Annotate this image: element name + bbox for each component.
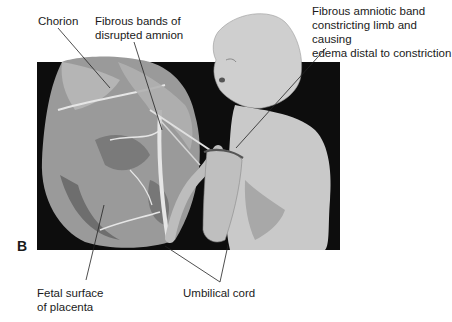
leader-umbilical-cord-b: [220, 245, 228, 282]
label-fetal-surface: Fetal surface of placenta: [37, 286, 103, 314]
label-umbilical-cord: Umbilical cord: [183, 286, 255, 300]
panel-letter: B: [17, 238, 27, 254]
label-chorion: Chorion: [38, 14, 78, 28]
label-fibrous-bands: Fibrous bands of disrupted amnion: [95, 14, 183, 42]
leader-umbilical-cord-a: [165, 246, 220, 282]
label-amniotic-band: Fibrous amniotic band constricting limb …: [312, 4, 452, 60]
